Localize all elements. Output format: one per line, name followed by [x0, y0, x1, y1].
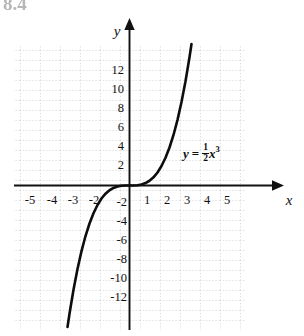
x-tick-label: 1 [144, 193, 150, 207]
y-tick-label: 8 [118, 101, 124, 115]
figure-number-artifact: 8.4 [3, 0, 27, 15]
fraction-denominator: 2 [202, 153, 209, 164]
x-tick-label: 5 [224, 193, 230, 207]
y-tick-label: 12 [112, 63, 125, 77]
y-tick-label: 6 [118, 120, 124, 134]
y-tick-label: -4 [117, 214, 128, 228]
x-tick-label: 2 [164, 193, 170, 207]
figure-container: 8.4 x y -5 -4 -3 -2 1 2 [0, 0, 304, 336]
x-axis-label: x [285, 192, 293, 208]
y-axis-label: y [112, 23, 121, 39]
x-tick-label: 4 [204, 193, 211, 207]
y-tick-label: -12 [110, 290, 127, 304]
graph-canvas: x y -5 -4 -3 -2 1 2 3 4 5 12 10 8 6 4 2 … [0, 0, 304, 336]
x-tick-label: -4 [47, 193, 58, 207]
y-tick-label: -6 [117, 233, 127, 247]
x-tick-label: -3 [68, 193, 78, 207]
x-tick-label: 3 [184, 193, 190, 207]
y-tick-label: 4 [118, 139, 125, 153]
equation-fraction: 1 2 [202, 143, 209, 163]
y-tick-label: -10 [110, 271, 127, 285]
y-tick-label: -8 [117, 252, 127, 266]
fraction-numerator: 1 [202, 143, 209, 153]
y-tick-label: 10 [112, 82, 125, 96]
equation-exponent: 3 [215, 145, 219, 154]
equation-lhs: y [183, 147, 189, 160]
equation-annotation: y = 1 2 x 3 [183, 143, 220, 163]
y-tick-label: 2 [118, 158, 124, 172]
equation-equals: = [192, 147, 199, 160]
y-tick-label: -2 [117, 195, 127, 209]
x-tick-label: -5 [25, 193, 35, 207]
